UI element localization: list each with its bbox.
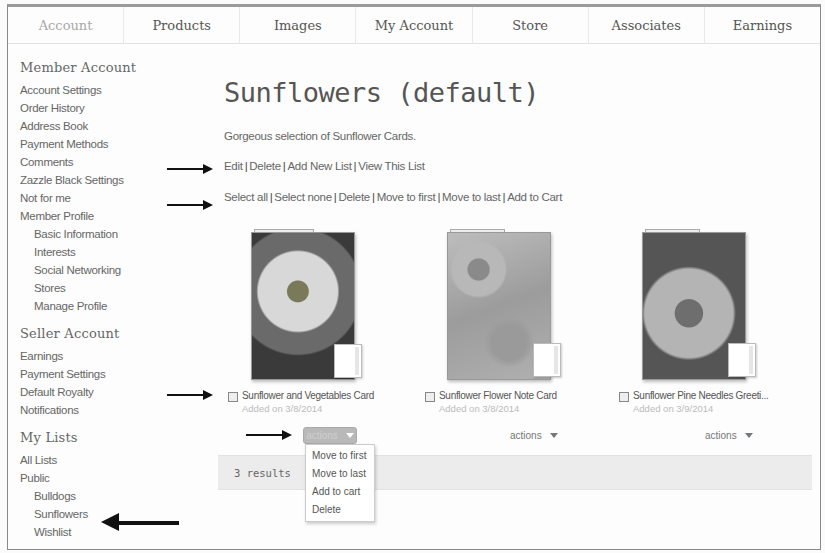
sidebar-item-notifications[interactable]: Notifications	[20, 401, 190, 419]
sidebar-item-address-book[interactable]: Address Book	[20, 117, 190, 135]
sidebar-item-basic-information[interactable]: Basic Information	[20, 225, 190, 243]
top-nav: Account Products Images My Account Store…	[8, 7, 820, 44]
my-lists-heading: My Lists	[20, 430, 190, 445]
product-checkbox[interactable]	[619, 392, 629, 402]
actions-dropdown-button[interactable]: actions	[303, 427, 357, 444]
add-to-cart-link[interactable]: Add to Cart	[507, 191, 562, 203]
product-checkbox[interactable]	[228, 392, 238, 402]
menu-item-add-to-cart[interactable]: Add to cart	[306, 483, 374, 501]
menu-item-move-to-first[interactable]: Move to first	[306, 447, 374, 465]
selection-actions-row: Select all|Select none|Delete|Move to fi…	[224, 191, 810, 203]
annotation-arrow-icon	[246, 434, 284, 436]
chevron-down-icon	[550, 433, 558, 438]
menu-item-delete[interactable]: Delete	[306, 501, 374, 519]
chevron-down-icon	[745, 433, 753, 438]
annotation-arrow-icon	[167, 168, 205, 170]
actions-label: actions	[306, 430, 338, 441]
product-name-link[interactable]: Sunflower Pine Needles Greeti...	[633, 390, 768, 401]
tab-store[interactable]: Store	[473, 7, 589, 43]
product-date: Added on 3/8/2014	[439, 403, 519, 414]
annotation-arrow-icon	[117, 521, 179, 525]
sidebar-item-social-networking[interactable]: Social Networking	[20, 261, 190, 279]
sidebar-item-not-for-me[interactable]: Not for me	[20, 189, 190, 207]
sidebar: Member Account Account Settings Order Hi…	[20, 60, 190, 552]
sidebar-item-earnings[interactable]: Earnings	[20, 347, 190, 365]
tab-my-account[interactable]: My Account	[356, 7, 472, 43]
sidebar-item-manage-profile[interactable]: Manage Profile	[20, 297, 190, 315]
seller-account-group: Seller Account Earnings Payment Settings…	[20, 326, 190, 419]
sidebar-item-zazzle-black-settings[interactable]: Zazzle Black Settings	[20, 171, 190, 189]
product-name-link[interactable]: Sunflower Flower Note Card	[439, 390, 557, 401]
actions-label: actions	[705, 430, 737, 441]
member-account-group: Member Account Account Settings Order Hi…	[20, 60, 190, 315]
menu-item-move-to-last[interactable]: Move to last	[306, 465, 374, 483]
add-new-list-link[interactable]: Add New List	[287, 160, 351, 172]
tab-images[interactable]: Images	[240, 7, 356, 43]
card-inside-preview	[728, 343, 756, 377]
move-to-last-link[interactable]: Move to last	[442, 191, 500, 203]
sidebar-item-member-profile[interactable]: Member Profile	[20, 207, 190, 225]
select-none-link[interactable]: Select none	[274, 191, 331, 203]
delete-list-link[interactable]: Delete	[249, 160, 280, 172]
card-inside-preview	[533, 343, 561, 377]
delete-selected-link[interactable]: Delete	[339, 191, 370, 203]
annotation-arrow-icon	[167, 204, 205, 206]
separator: |	[370, 191, 377, 203]
sidebar-item-payment-settings[interactable]: Payment Settings	[20, 365, 190, 383]
tab-account[interactable]: Account	[8, 7, 124, 43]
sidebar-item-stores[interactable]: Stores	[20, 279, 190, 297]
tab-products[interactable]: Products	[124, 7, 240, 43]
select-all-link[interactable]: Select all	[224, 191, 268, 203]
separator: |	[332, 191, 339, 203]
list-actions-row: Edit|Delete|Add New List|View This List	[224, 160, 810, 172]
product-name-link[interactable]: Sunflower and Vegetables Card	[242, 390, 374, 401]
sidebar-item-bulldogs[interactable]: Bulldogs	[20, 487, 190, 505]
sidebar-item-comments[interactable]: Comments	[20, 153, 190, 171]
sidebar-item-payment-methods[interactable]: Payment Methods	[20, 135, 190, 153]
move-to-first-link[interactable]: Move to first	[377, 191, 436, 203]
main-content: Sunflowers (default) Gorgeous selection …	[224, 47, 810, 203]
product-checkbox[interactable]	[425, 392, 435, 402]
annotation-arrow-icon	[167, 394, 205, 396]
edit-list-link[interactable]: Edit	[224, 160, 243, 172]
actions-dropdown-button[interactable]: actions	[705, 430, 753, 441]
actions-menu: Move to first Move to last Add to cart D…	[305, 444, 375, 522]
sidebar-item-interests[interactable]: Interests	[20, 243, 190, 261]
actions-dropdown-button[interactable]: actions	[510, 430, 558, 441]
tab-associates[interactable]: Associates	[589, 7, 705, 43]
view-this-list-link[interactable]: View This List	[358, 160, 424, 172]
page-frame: Account Products Images My Account Store…	[7, 4, 821, 550]
actions-label: actions	[510, 430, 542, 441]
sidebar-item-all-lists[interactable]: All Lists	[20, 451, 190, 469]
sidebar-item-account-settings[interactable]: Account Settings	[20, 81, 190, 99]
sidebar-item-order-history[interactable]: Order History	[20, 99, 190, 117]
sidebar-item-default-royalty[interactable]: Default Royalty	[20, 383, 190, 401]
chevron-down-icon	[346, 433, 354, 438]
card-inside-preview	[334, 344, 362, 378]
tab-earnings[interactable]: Earnings	[705, 7, 820, 43]
page-title: Sunflowers (default)	[224, 77, 810, 108]
list-description: Gorgeous selection of Sunflower Cards.	[224, 130, 810, 142]
results-count: 3 results	[234, 467, 291, 479]
seller-account-heading: Seller Account	[20, 326, 190, 341]
sidebar-item-public[interactable]: Public	[20, 469, 190, 487]
product-date: Added on 3/9/2014	[633, 403, 713, 414]
product-date: Added on 3/8/2014	[242, 403, 322, 414]
member-account-heading: Member Account	[20, 60, 190, 75]
